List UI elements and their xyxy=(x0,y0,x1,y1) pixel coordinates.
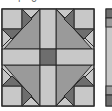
adjacent-block-edge xyxy=(106,9,112,106)
sash-right xyxy=(56,49,94,65)
corner-square-tr xyxy=(74,9,94,29)
corner-square-tl xyxy=(2,9,22,29)
sash-bottom xyxy=(40,65,56,106)
sash-left xyxy=(2,49,40,65)
sash-top xyxy=(40,9,56,49)
corner-square-br xyxy=(74,86,94,106)
center-square xyxy=(40,49,56,65)
quilt-block xyxy=(0,0,112,111)
corner-square-bl xyxy=(2,86,22,106)
